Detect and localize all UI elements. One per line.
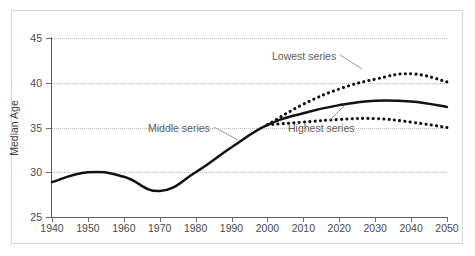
leader-middle-series <box>214 127 238 140</box>
leader-lowest-series <box>340 55 362 69</box>
leader-highest-series <box>330 106 344 120</box>
median-age-chart-figure: Median Age 2530354045 194019501960197019… <box>0 0 475 256</box>
annotation-leader-lines <box>0 0 475 256</box>
